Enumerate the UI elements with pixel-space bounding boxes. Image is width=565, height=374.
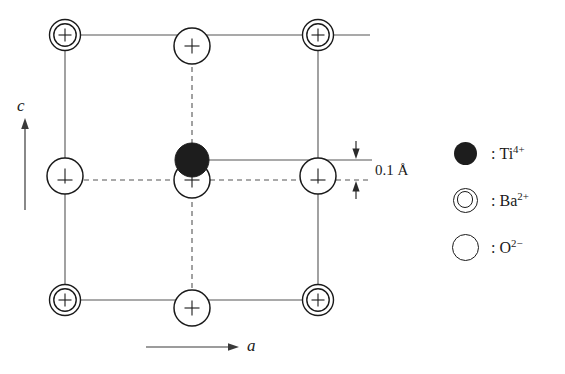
legend-item-ti: : Ti4+ (452, 130, 562, 177)
legend-label-o: : O2− (491, 240, 523, 256)
axis-a-arrowhead (228, 343, 239, 351)
figure-canvas: c a 0.1 Å : Ti4+ : Ba2+ : O2− (0, 0, 565, 374)
atom-ba-top-left (50, 20, 81, 51)
atom-ba-top-right (303, 20, 334, 51)
ba-ion-icon (452, 186, 482, 216)
o-ion-icon (452, 233, 482, 263)
ti-ion-icon (452, 139, 482, 169)
legend-item-ba: : Ba2+ (452, 177, 562, 224)
offset-dimension-label: 0.1 Å (375, 163, 408, 178)
atom-ba-bottom-left (50, 285, 81, 316)
atom-ba-bottom-right (303, 285, 334, 316)
axis-c-arrowhead (21, 118, 29, 129)
legend-separator-ti: : (491, 145, 495, 162)
legend-label-ba: : Ba2+ (491, 193, 529, 209)
legend: : Ti4+ : Ba2+ : O2− (452, 130, 562, 271)
axis-c-label: c (17, 97, 25, 114)
atom-o-left-middle (47, 158, 83, 194)
legend-label-ti: : Ti4+ (491, 146, 525, 162)
legend-charge-ba: 2+ (517, 189, 529, 201)
legend-species-o: O (499, 239, 511, 256)
legend-separator-o: : (491, 239, 495, 256)
legend-species-ba: Ba (499, 192, 517, 209)
legend-separator-ba: : (491, 192, 495, 209)
legend-charge-o: 2− (511, 236, 523, 248)
offset-arrowhead-down (352, 149, 359, 160)
legend-item-o: : O2− (452, 224, 562, 271)
atom-ti-center (175, 143, 209, 177)
legend-charge-ti: 4+ (513, 142, 525, 154)
atom-o-bottom-middle (174, 290, 210, 326)
atom-o-top-middle (174, 28, 210, 64)
atom-o-right-middle (300, 158, 336, 194)
offset-arrowhead-up (352, 181, 359, 192)
axis-a-label: a (247, 337, 256, 354)
legend-species-ti: Ti (499, 145, 513, 162)
